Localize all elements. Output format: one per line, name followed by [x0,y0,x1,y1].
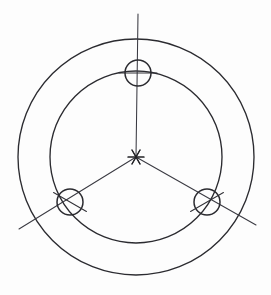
drawing-canvas [0,0,271,295]
centerline-lower-left [19,157,136,229]
centerlines-group [19,14,256,229]
hole-crosshairs-group [54,73,224,212]
technical-drawing-svg [0,0,271,295]
bolt-holes-group [57,60,220,215]
centerline-lower-right [136,157,256,225]
